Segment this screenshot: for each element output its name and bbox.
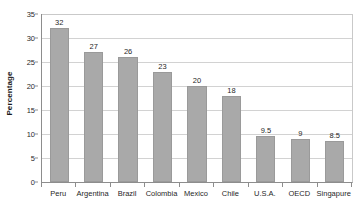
x-axis-tick-mark (282, 183, 283, 187)
bar-value-label: 9 (298, 129, 302, 138)
x-axis-labels: PeruArgentinaBrazilColombiaMexicoChileU.… (41, 188, 351, 204)
bar-slot: 8.5 (318, 14, 352, 182)
bar-value-label: 27 (89, 42, 97, 51)
bar-slot: 32 (42, 14, 76, 182)
bar-slot: 26 (111, 14, 145, 182)
plot-area: 3227262320189.598.5 (41, 14, 353, 183)
x-axis-tick-mark (317, 183, 318, 187)
bar-value-label: 23 (158, 62, 166, 71)
x-axis-tick-mark (75, 183, 76, 187)
x-axis-category-label: Argentina (75, 188, 109, 204)
bar-value-label: 9.5 (261, 126, 271, 135)
x-axis-category-label: Mexico (179, 188, 213, 204)
bar[interactable] (256, 136, 275, 182)
x-axis-tick-mark (179, 183, 180, 187)
bar-value-label: 8.5 (330, 131, 340, 140)
x-axis-category-label: Brazil (110, 188, 144, 204)
bar-value-label: 20 (193, 76, 201, 85)
bar[interactable] (222, 96, 241, 182)
x-axis-tick-mark (248, 183, 249, 187)
x-axis-tick-mark (213, 183, 214, 187)
x-axis-category-label: OECD (282, 188, 316, 204)
x-axis-tick-mark (41, 183, 42, 187)
y-axis-tick-label: 10 (27, 130, 35, 139)
y-axis-tick-mark (35, 86, 38, 87)
x-axis-ticks (41, 183, 352, 187)
bar-slot: 20 (180, 14, 214, 182)
x-axis-category-label: Singapure (317, 188, 351, 204)
bar-value-label: 26 (124, 47, 132, 56)
bar-slot: 27 (76, 14, 110, 182)
y-axis-title-text: Percentage (5, 71, 14, 115)
bar[interactable] (118, 57, 137, 182)
y-axis-tick-label: 35 (27, 10, 35, 19)
bar[interactable] (291, 139, 310, 182)
y-axis-tick-label: 15 (27, 106, 35, 115)
y-axis-tick-mark (35, 62, 38, 63)
bar-slot: 9.5 (249, 14, 283, 182)
bar-chart: Percentage 05101520253035 3227262320189.… (0, 0, 355, 211)
x-axis-category-label: U.S.A. (248, 188, 282, 204)
x-axis-tick-mark (110, 183, 111, 187)
bar[interactable] (325, 141, 344, 182)
x-axis-category-label: Peru (41, 188, 75, 204)
bar-slot: 9 (283, 14, 317, 182)
bar-series: 3227262320189.598.5 (42, 14, 352, 182)
bar-value-label: 32 (55, 18, 63, 27)
y-axis-tick-mark (35, 158, 38, 159)
bar[interactable] (84, 52, 103, 182)
bar-value-label: 18 (227, 86, 235, 95)
x-axis-category-label: Chile (213, 188, 247, 204)
y-axis-tick-mark (35, 38, 38, 39)
y-axis-tick-label: 20 (27, 82, 35, 91)
x-axis-tick-mark (351, 183, 352, 187)
y-axis-tick-mark (35, 134, 38, 135)
y-axis-title: Percentage (0, 0, 18, 186)
bar[interactable] (50, 28, 69, 182)
bar[interactable] (153, 72, 172, 182)
y-axis-tick-mark (35, 110, 38, 111)
y-axis-tick-mark (35, 182, 38, 183)
x-axis-category-label: Colombia (144, 188, 178, 204)
y-axis-tick-label: 25 (27, 58, 35, 67)
y-axis-ticks: 05101520253035 (18, 0, 38, 211)
x-axis-tick-mark (144, 183, 145, 187)
bar-slot: 18 (214, 14, 248, 182)
bar[interactable] (187, 86, 206, 182)
bar-slot: 23 (145, 14, 179, 182)
y-axis-tick-mark (35, 14, 38, 15)
y-axis-tick-label: 30 (27, 34, 35, 43)
